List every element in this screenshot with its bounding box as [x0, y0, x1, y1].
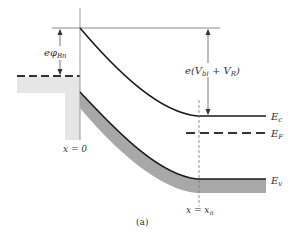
ef-label: EF [270, 128, 284, 141]
ec-label: Ec [270, 111, 282, 124]
ev-label: Ev [270, 175, 282, 188]
potential-arrow-up-icon [206, 29, 211, 35]
band-diagram: eφBn e(Vbi + VR) Ec EF Ev x = 0 x = xn (… [0, 0, 297, 245]
figure-caption: (a) [136, 217, 148, 227]
x0-label: x = 0 [63, 144, 87, 154]
barrier-arrow-down-icon [58, 69, 63, 75]
xn-label: x = xn [186, 205, 214, 217]
barrier-arrow-up-icon [58, 29, 63, 35]
valence-band-fill [80, 92, 266, 193]
potential-arrow-down-icon [206, 109, 211, 115]
metal-region [17, 77, 80, 140]
